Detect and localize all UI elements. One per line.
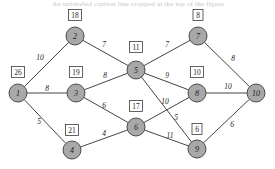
edge-weight-5-7: 7 <box>165 40 169 49</box>
edge-weight-4-6: 4 <box>102 129 106 138</box>
node-value-text-6: 17 <box>132 102 140 111</box>
edge-weight-1-4: 5 <box>37 117 41 126</box>
graph-node-label-5: 5 <box>134 66 138 75</box>
edge-weight-9-10: 6 <box>230 120 234 129</box>
edge-weight-3-6: 6 <box>102 101 106 110</box>
graph-canvas: 1085786479510118106 2618192111178106 123… <box>0 0 275 169</box>
edge-weight-1-2: 10 <box>36 53 44 62</box>
edge-weight-8-10: 10 <box>224 82 232 91</box>
node-value-text-3: 19 <box>72 68 80 77</box>
edge-weight-6-9: 11 <box>167 131 174 140</box>
node-value-text-4: 21 <box>68 126 76 135</box>
graph-node-label-2: 2 <box>73 32 77 41</box>
edge-weight-6-8: 10 <box>161 97 169 106</box>
edge-weight-2-5: 7 <box>102 40 106 49</box>
node-value-text-5: 11 <box>132 43 139 52</box>
node-value-text-9: 6 <box>195 125 199 134</box>
edge-weight-7-10: 8 <box>231 54 235 63</box>
graph-node-label-6: 6 <box>134 123 138 132</box>
edge-weight-3-5: 8 <box>103 71 107 80</box>
graph-node-label-3: 3 <box>73 89 78 98</box>
graph-edge-7-10 <box>204 42 249 86</box>
graph-node-label-4: 4 <box>70 146 74 155</box>
graph-edge-1-4 <box>24 100 66 144</box>
edge-weight-5-9: 5 <box>174 113 178 122</box>
node-value-text-7: 8 <box>196 11 200 20</box>
node-value-text-8: 10 <box>193 68 201 77</box>
node-value-text-1: 26 <box>14 68 22 77</box>
edge-weight-5-8: 9 <box>165 71 169 80</box>
edge-weight-1-3: 8 <box>45 84 49 93</box>
graph-edge-3-6 <box>84 97 128 122</box>
graph-node-label-1: 1 <box>16 89 20 98</box>
graph-node-label-9: 9 <box>195 145 199 154</box>
weighted-graph-figure: An unlabeled caption line cropped at the… <box>0 0 275 169</box>
graph-node-label-10: 10 <box>252 89 260 98</box>
graph-node-label-8: 8 <box>195 89 199 98</box>
graph-edge-9-10 <box>204 99 250 143</box>
graph-edge-1-2 <box>24 42 68 86</box>
node-value-text-2: 18 <box>71 11 79 20</box>
